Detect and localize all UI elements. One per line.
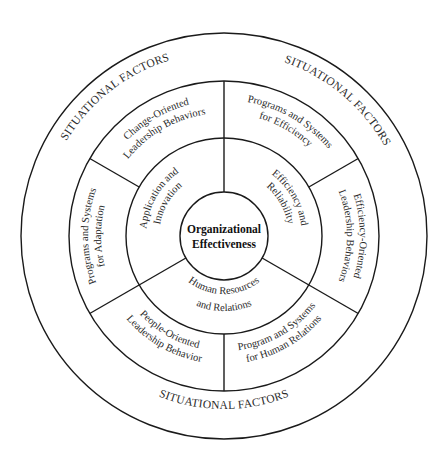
svg-text:Human Resources: Human Resources <box>187 274 261 296</box>
divider-line <box>90 159 139 188</box>
svg-text:for Adaptation: for Adaptation <box>92 203 107 268</box>
segment-programs-systems-adaptation: Programs and Systems for Adaptation <box>79 186 107 286</box>
sector-efficiency-reliability: Efficiency and Reliability <box>265 167 311 227</box>
svg-text:Programs and Systems: Programs and Systems <box>247 93 336 150</box>
center-label-line-2: Effectiveness <box>192 238 256 250</box>
svg-text:Leadership Behaviors: Leadership Behaviors <box>337 188 356 284</box>
divider-line <box>309 159 358 188</box>
center-circle <box>180 192 268 280</box>
segment-efficiency-oriented-leadership-behaviors: Efficiency-Oriented Leadership Behaviors <box>337 188 369 284</box>
segment-change-oriented-leadership-behaviors: Change-Oriented Leadership Behaviors <box>121 96 206 161</box>
organizational-effectiveness-diagram: SITUATIONAL FACTORS SITUATIONAL FACTORS … <box>0 0 444 465</box>
segment-programs-systems-efficiency: Programs and Systems for Efficiency <box>247 93 336 150</box>
center-label-line-1: Organizational <box>187 223 261 236</box>
segment-people-oriented-leadership-behavior: People-Oriented Leadership Behavior <box>125 308 203 364</box>
center-label: Organizational Effectiveness <box>187 223 261 250</box>
svg-text:and Relations: and Relations <box>195 297 253 313</box>
sector-application-innovation: Application and Innovation <box>137 165 184 230</box>
segment-program-systems-human-relations: Program and Systems for Human Relations <box>237 300 323 364</box>
